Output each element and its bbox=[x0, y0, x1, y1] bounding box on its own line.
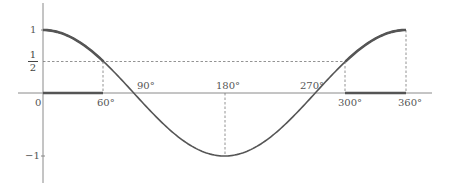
x-label-300: 300° bbox=[338, 98, 362, 108]
cosine-curve-highlight-left bbox=[43, 30, 104, 62]
x-label-90: 90° bbox=[137, 81, 155, 91]
fraction-denominator: 2 bbox=[30, 62, 36, 73]
x-label-180: 180° bbox=[216, 81, 240, 91]
x-label-270: 270° bbox=[300, 81, 324, 91]
fraction-numerator: 1 bbox=[30, 49, 36, 60]
x-label-360: 360° bbox=[398, 98, 422, 108]
y-label-1: 1 bbox=[30, 25, 36, 35]
x-label-60: 60° bbox=[97, 98, 115, 108]
y-label-neg1: −1 bbox=[25, 151, 40, 161]
cosine-graph bbox=[0, 0, 450, 195]
y-label-one-half: 1 2 bbox=[28, 50, 38, 73]
x-label-origin: 0 bbox=[35, 98, 41, 108]
cosine-curve-highlight-right bbox=[346, 30, 407, 62]
